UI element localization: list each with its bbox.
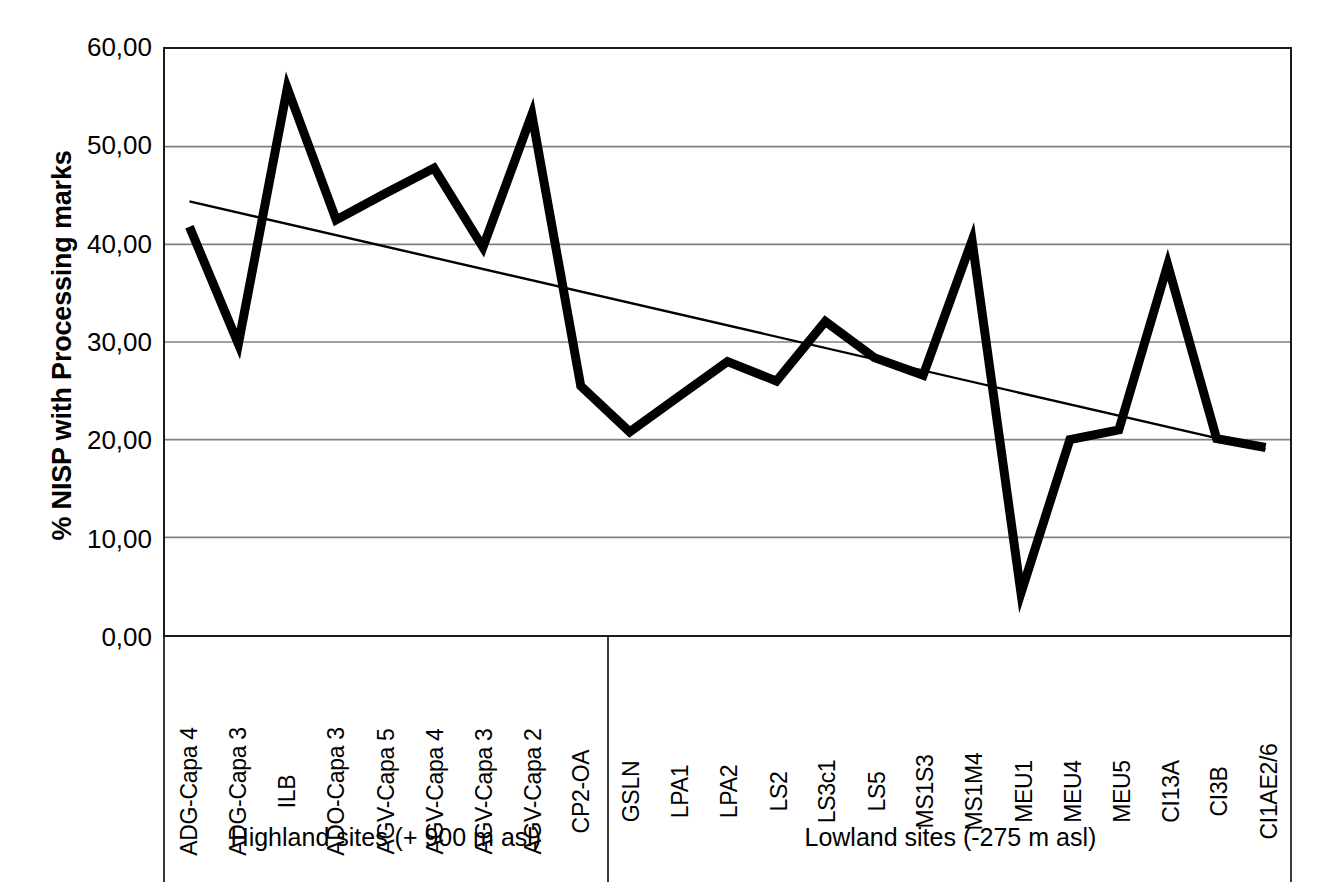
y-tick-label: 10,00 [40, 523, 152, 554]
category-tick-text: ILB [274, 775, 301, 809]
data-line-group [189, 88, 1265, 593]
series-line [189, 88, 1265, 593]
chart-figure: % NISP with Processing marks 60,0050,004… [0, 0, 1327, 882]
category-tick-text: GSLN [618, 761, 645, 822]
category-tick-label: AGV-Capa 3 [460, 643, 509, 805]
category-tick-label: AGV-Capa 2 [509, 643, 558, 805]
category-tick-label: CI13A [1147, 643, 1196, 805]
group-label: Highland sites (+ 900 m asl) [165, 823, 607, 852]
category-tick-label: ILB [263, 643, 312, 805]
category-tick-text: MS1M4 [961, 753, 988, 831]
category-tick-label: ADG-Capa 3 [214, 643, 263, 805]
category-tick-text: LPA2 [716, 765, 743, 818]
y-tick-label: 20,00 [40, 425, 152, 456]
category-tick-label: ADG-Capa 4 [165, 643, 214, 805]
y-axis-tick-labels: 60,0050,0040,0030,0020,0010,000,00 [40, 47, 152, 637]
trendline [189, 201, 1265, 449]
category-tick-label: AGV-Capa 5 [361, 643, 410, 805]
plot-svg [165, 49, 1290, 635]
category-tick-text: MS1S3 [912, 755, 939, 829]
category-tick-text: LS2 [765, 771, 792, 811]
trendline-group [189, 201, 1265, 449]
category-tick-label: MEU1 [999, 643, 1048, 805]
category-tick-label: AGV-Capa 4 [410, 643, 459, 805]
y-tick-label: 40,00 [40, 228, 152, 259]
group-label: Lowland sites (-275 m asl) [607, 823, 1294, 852]
category-tick-text: MEU1 [1011, 760, 1038, 823]
category-tick-text: CI3B [1207, 767, 1234, 817]
category-tick-label: LS5 [852, 643, 901, 805]
category-tick-label: LPA1 [656, 643, 705, 805]
category-tick-label: CP2-OA [558, 643, 607, 805]
category-tick-text: MEU5 [1109, 760, 1136, 823]
category-tick-label: MS1M4 [950, 643, 999, 805]
category-tick-text: LPA1 [667, 765, 694, 818]
y-tick-label: 60,00 [40, 32, 152, 63]
y-tick-label: 30,00 [40, 327, 152, 358]
category-tick-label: LPA2 [705, 643, 754, 805]
category-tick-label: MEU5 [1098, 643, 1147, 805]
category-tick-label: MEU4 [1049, 643, 1098, 805]
category-tick-text: CI13A [1158, 760, 1185, 822]
category-tick-label: CI1AE2/6 [1245, 643, 1294, 805]
category-tick-text: CP2-OA [569, 750, 596, 834]
category-tick-label: MS1S3 [901, 643, 950, 805]
y-tick-label: 50,00 [40, 130, 152, 161]
y-tick-label: 0,00 [40, 622, 152, 653]
category-tick-text: MEU4 [1060, 760, 1087, 823]
category-tick-label: CI3B [1196, 643, 1245, 805]
category-tick-text: LS3c1 [814, 760, 841, 824]
category-axis-band: ADG-Capa 4ADG-Capa 3ILBADO-Capa 3AGV-Cap… [163, 637, 1292, 882]
plot-area [163, 47, 1292, 637]
category-tick-text: LS5 [863, 771, 890, 811]
category-tick-label: ADO-Capa 3 [312, 643, 361, 805]
category-tick-label: LS2 [754, 643, 803, 805]
category-tick-label: LS3c1 [803, 643, 852, 805]
category-tick-label: GSLN [607, 643, 656, 805]
